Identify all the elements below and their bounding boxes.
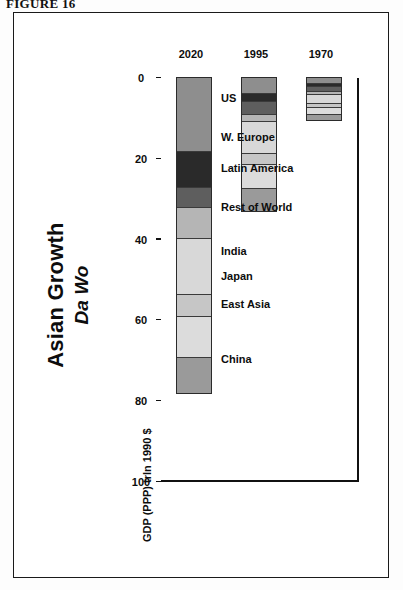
axis-tick-label: 40	[129, 234, 153, 246]
axis-tick-label: 60	[129, 314, 153, 326]
chart-subtitle: Da Wo	[71, 12, 93, 578]
bar-segment-east-asia	[177, 151, 211, 187]
legend-label-india: India	[221, 245, 247, 257]
stacked-bar-1970	[307, 78, 341, 120]
bar-segment-japan	[307, 86, 341, 91]
category-label-1995: 1995	[238, 48, 274, 60]
axis-tick	[156, 400, 161, 401]
legend-label-japan: Japan	[221, 270, 253, 282]
axis-tick-label: 80	[129, 395, 153, 407]
figure-number-label: FIGURE 16	[6, 0, 76, 12]
bar-segment-east-asia	[307, 83, 341, 86]
chart-canvas: Asian Growth Da Wo GDP (PPP) trln 1990 $…	[13, 12, 389, 578]
bar-segment-japan	[177, 187, 211, 207]
axis-tick-label: 20	[129, 153, 153, 165]
bar-segment-latin-america	[177, 294, 211, 316]
axis-tick	[156, 238, 161, 239]
legend-label-us: US	[221, 92, 236, 104]
bar-segment-china	[177, 78, 211, 151]
bar-segment-china	[242, 78, 276, 93]
axis-tick	[156, 77, 161, 78]
bar-segment-latin-america	[307, 103, 341, 107]
chart-title: Asian Growth	[43, 12, 69, 578]
axis-tick	[156, 319, 161, 320]
category-label-1970: 1970	[303, 48, 339, 60]
stacked-bar-1995	[242, 78, 276, 211]
bar-segment-india	[177, 207, 211, 237]
figure-page: FIGURE 16 Asian Growth Da Wo GDP (PPP) t…	[0, 0, 403, 590]
bar-segment-w-europe	[307, 107, 341, 114]
axis-tick-label: 100	[129, 476, 153, 488]
bar-segment-east-asia	[242, 93, 276, 102]
axis-tick	[156, 158, 161, 159]
legend-label-w-europe: W. Europe	[221, 131, 275, 143]
bar-segment-rest-of-world	[307, 94, 341, 103]
plot-area: 100806040200197019952020USW. EuropeLatin…	[161, 78, 357, 482]
bar-segment-india	[242, 114, 276, 121]
category-axis-line	[357, 78, 359, 482]
bar-segment-india	[307, 91, 341, 94]
bar-segment-china	[307, 78, 341, 83]
bar-segment-us	[177, 357, 211, 393]
legend-label-rest-of-world: Rest of World	[221, 201, 292, 213]
bar-segment-rest-of-world	[177, 238, 211, 295]
chart-rotation-container: Asian Growth Da Wo GDP (PPP) trln 1990 $…	[13, 12, 389, 578]
legend-label-latin-america: Latin America	[221, 162, 293, 174]
bar-segment-w-europe	[177, 316, 211, 356]
category-label-2020: 2020	[173, 48, 209, 60]
axis-tick-label: 0	[129, 72, 153, 84]
bar-segment-japan	[242, 101, 276, 113]
legend-label-east-asia: East Asia	[221, 298, 270, 310]
stacked-bar-2020	[177, 78, 211, 393]
axis-tick	[156, 481, 161, 482]
bar-segment-us	[307, 114, 341, 120]
legend-label-china: China	[221, 353, 252, 365]
